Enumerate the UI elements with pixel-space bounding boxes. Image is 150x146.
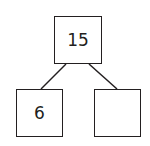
part-left-value: 6 — [34, 103, 45, 123]
connector-left — [41, 64, 66, 89]
whole-value: 15 — [67, 30, 89, 50]
whole-box: 15 — [54, 16, 102, 64]
connector-right — [89, 64, 117, 89]
part-box-left: 6 — [16, 89, 63, 137]
part-box-right[interactable] — [94, 89, 141, 137]
